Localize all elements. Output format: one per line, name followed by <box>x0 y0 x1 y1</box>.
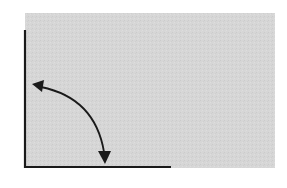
diagram-canvas <box>0 0 287 188</box>
diagram-svg <box>0 0 287 188</box>
gray-panel <box>25 13 275 168</box>
